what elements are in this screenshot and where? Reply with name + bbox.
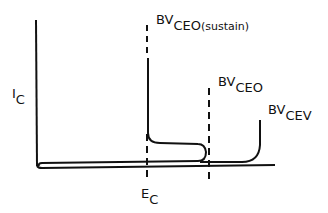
bvceo-sustain-sub: CEO — [173, 18, 201, 33]
bvceo-sustain-label: BVCEO(sustain) — [156, 11, 249, 27]
ec-label: EC — [141, 185, 158, 201]
bvceo-sub: CEO — [235, 80, 263, 95]
bvceo-sustain-suffix: (sustain) — [201, 20, 249, 33]
x-axis — [37, 165, 275, 168]
ic-axis-label: IC — [12, 85, 25, 101]
bvceo-label: BVCEO — [218, 73, 263, 89]
ec-main: E — [141, 186, 149, 201]
bvceo-sustain-main: BV — [156, 12, 173, 27]
bvcev-label: BVCEV — [268, 101, 312, 117]
bvceo-sustain-curve — [39, 58, 206, 166]
ec-sub: C — [149, 192, 158, 207]
bvcev-main: BV — [268, 102, 285, 117]
bvceo-main: BV — [218, 74, 235, 89]
y-axis — [36, 20, 37, 166]
bvcev-sub: CEV — [285, 108, 311, 123]
ic-sub: C — [16, 92, 25, 107]
